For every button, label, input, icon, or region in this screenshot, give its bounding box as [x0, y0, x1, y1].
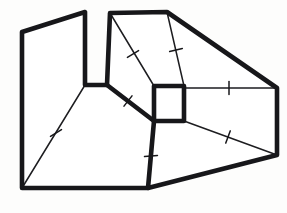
net-diagram-figure: Geometric net diagram Line drawing of an… — [0, 0, 287, 213]
net-diagram-canvas: Geometric net diagram Line drawing of an… — [0, 0, 287, 213]
